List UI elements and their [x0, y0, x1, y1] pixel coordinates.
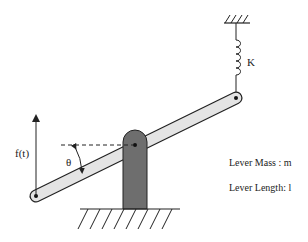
spring-constant-label: K — [247, 56, 255, 68]
force-label: f(t) — [15, 147, 29, 160]
lever-length-label: Lever Length: l — [229, 182, 291, 193]
fulcrum-post — [123, 130, 147, 209]
spring — [236, 23, 241, 98]
lever-diagram: K f(t) θ Lever Mass : m Lever Length: l — [0, 0, 308, 242]
top-ground-anchor — [224, 15, 250, 23]
lever-mass-label: Lever Mass : m — [229, 157, 292, 168]
base-ground — [78, 209, 180, 229]
spring-attachment-pivot — [234, 96, 238, 100]
angle-label: θ — [66, 156, 71, 168]
